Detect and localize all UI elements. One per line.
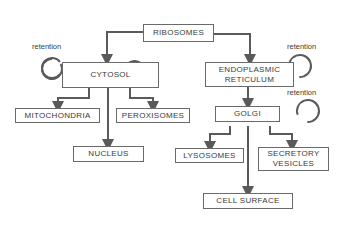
label-retention-golgi: retention bbox=[287, 88, 316, 97]
node-cell-surface: CELL SURFACE bbox=[203, 193, 293, 209]
node-mitochondria: MITOCHONDRIA bbox=[15, 108, 100, 123]
node-secretory-vesicles: SECRETORY VESICLES bbox=[258, 147, 329, 171]
label-retention-er: retention bbox=[287, 42, 316, 51]
node-golgi: GOLGI bbox=[215, 106, 280, 122]
node-peroxisomes: PEROXISOMES bbox=[116, 108, 190, 123]
label-retention-cytosol: retention bbox=[32, 42, 61, 51]
node-lysosomes: LYSOSOMES bbox=[175, 148, 244, 163]
node-nucleus: NUCLEUS bbox=[73, 146, 144, 162]
node-ribosomes: RIBOSOMES bbox=[143, 24, 214, 42]
node-cytosol: CYTOSOL bbox=[62, 62, 159, 88]
node-endoplasmic-reticulum: ENDOPLASMIC RETICULUM bbox=[205, 62, 294, 87]
